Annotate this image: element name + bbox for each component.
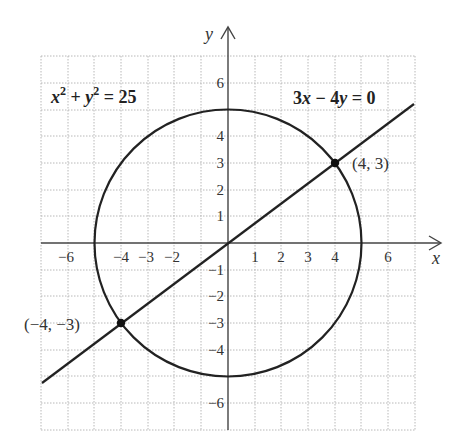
x-tick: −6 <box>58 249 74 265</box>
y-tick: −1 <box>208 262 224 278</box>
x-tick: 1 <box>251 249 259 265</box>
y-tick: −4 <box>208 342 224 358</box>
x-tick: 6 <box>384 249 392 265</box>
x-tick: −4 <box>113 249 129 265</box>
x-tick: 2 <box>277 249 285 265</box>
eq-rhs: = 0 <box>347 88 375 108</box>
eq-mid: − 4 <box>311 88 339 108</box>
y-tick: −6 <box>208 395 224 411</box>
point-label-upper: (4, 3) <box>352 154 389 173</box>
eq-var-x: x <box>50 87 60 107</box>
y-tick: 6 <box>217 75 225 91</box>
x-tick-labels: −6 −4 −3 −2 1 2 3 4 6 <box>58 249 392 265</box>
y-tick: 2 <box>217 182 225 198</box>
coordinate-plot: x y −6 −4 −3 −2 1 2 3 4 6 6 4 3 2 1 −1 −… <box>0 0 471 446</box>
y-tick: −3 <box>208 315 224 331</box>
x-tick: 3 <box>304 249 312 265</box>
x-tick: −2 <box>164 249 180 265</box>
y-axis-label: y <box>203 24 213 44</box>
y-tick: 3 <box>217 155 225 171</box>
x-axis-label: x <box>431 248 440 268</box>
x-tick: −3 <box>138 249 154 265</box>
intersection-point-upper <box>331 159 339 167</box>
y-tick: 4 <box>217 128 225 144</box>
x-tick: 4 <box>331 249 339 265</box>
eq-rhs: = 25 <box>99 87 136 107</box>
intersection-point-lower <box>117 319 125 327</box>
point-label-lower: (−4, −3) <box>24 315 80 334</box>
y-tick: −2 <box>208 288 224 304</box>
eq-plus: + <box>66 87 85 107</box>
eq-coef: 3 <box>293 88 302 108</box>
y-tick: 1 <box>217 208 225 224</box>
eq-var-x: x <box>301 88 311 108</box>
circle-equation: x2 + y2 = 25 <box>50 84 137 107</box>
line-equation: 3x − 4y = 0 <box>293 88 376 108</box>
